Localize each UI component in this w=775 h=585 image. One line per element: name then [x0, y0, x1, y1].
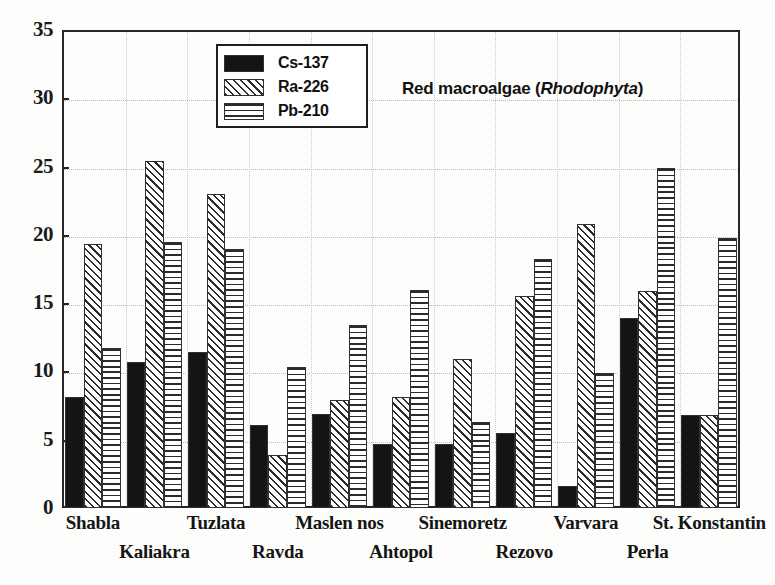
x-axis-label: Shabla — [66, 512, 120, 534]
bar-ra-226-maslen-nos — [330, 400, 349, 508]
legend-label-ra226: Ra-226 — [278, 78, 329, 96]
bar-ra-226-st-konstantin — [700, 415, 719, 508]
bar-cs-137-varvara — [558, 486, 577, 508]
x-axis-label: Ahtopol — [369, 541, 432, 563]
y-axis-tick-label: 20 — [33, 224, 53, 245]
y-axis-tick-label: 0 — [43, 497, 53, 518]
chart-figure: 05101520253035 Cs-137 Ra-226 Pb-210 Red … — [0, 0, 775, 585]
bar-cs-137-sinemoretz — [435, 444, 454, 508]
bar-ra-226-rezovo — [515, 296, 534, 508]
bar-cs-137-tuzlata — [188, 352, 207, 508]
legend-swatch-pb210-icon — [224, 103, 264, 120]
x-axis-label: Rezovo — [496, 541, 553, 563]
x-axis-label: Varvara — [554, 512, 619, 534]
bar-ra-226-sinemoretz — [453, 359, 472, 508]
x-axis-label: Ravda — [252, 541, 303, 563]
bar-ra-226-varvara — [577, 224, 596, 508]
bar-pb-210-ravda — [287, 367, 306, 508]
y-axis-tick-label: 25 — [33, 156, 53, 177]
bar-cs-137-perla — [620, 318, 639, 508]
bar-pb-210-perla — [657, 168, 676, 508]
x-axis-label: Maslen nos — [295, 512, 383, 534]
bar-cs-137-ahtopol — [373, 444, 392, 508]
bar-pb-210-st-konstantin — [718, 238, 737, 508]
chart-title-species: Rhodophyta — [541, 79, 638, 98]
bar-pb-210-shabla — [102, 348, 121, 508]
legend-swatch-ra226-icon — [224, 79, 264, 96]
bars-layer — [62, 30, 740, 508]
bar-pb-210-ahtopol — [410, 290, 429, 509]
legend-item: Cs-137 — [224, 51, 360, 75]
chart-legend: Cs-137 Ra-226 Pb-210 — [216, 44, 368, 128]
legend-label-pb210: Pb-210 — [278, 102, 329, 120]
bar-pb-210-varvara — [595, 373, 614, 508]
bar-ra-226-ahtopol — [392, 397, 411, 508]
legend-item: Ra-226 — [224, 75, 360, 99]
y-axis-tick-label: 30 — [33, 87, 53, 108]
bar-pb-210-kaliakra — [164, 242, 183, 508]
y-axis-tick-label: 5 — [43, 429, 53, 450]
bar-ra-226-kaliakra — [145, 161, 164, 508]
bar-pb-210-maslen-nos — [349, 325, 368, 508]
bar-ra-226-shabla — [84, 244, 103, 508]
bar-ra-226-perla — [638, 291, 657, 508]
bar-cs-137-ravda — [250, 425, 269, 508]
bar-pb-210-tuzlata — [225, 249, 244, 508]
legend-item: Pb-210 — [224, 99, 360, 123]
x-axis-label: Perla — [627, 541, 669, 563]
bar-cs-137-shabla — [65, 397, 84, 508]
chart-title: Red macroalgae (Rhodophyta) — [402, 79, 643, 99]
bar-cs-137-rezovo — [496, 433, 515, 508]
x-axis-label: Kaliakra — [119, 541, 189, 563]
bar-ra-226-ravda — [268, 455, 287, 508]
legend-swatch-cs137-icon — [224, 55, 264, 72]
chart-title-tail: ) — [638, 79, 643, 98]
bar-cs-137-kaliakra — [127, 362, 146, 508]
y-axis-tick-label: 15 — [33, 292, 53, 313]
chart-title-plain: Red macroalgae ( — [402, 79, 541, 98]
x-axis-label: Sinemoretz — [418, 512, 506, 534]
y-axis-tick-label: 35 — [33, 19, 53, 40]
y-axis-tick-label: 10 — [33, 360, 53, 381]
bar-cs-137-st-konstantin — [681, 415, 700, 508]
legend-label-cs137: Cs-137 — [278, 54, 329, 72]
bar-pb-210-sinemoretz — [472, 422, 491, 508]
x-axis-label: Tuzlata — [187, 512, 245, 534]
bar-cs-137-maslen-nos — [312, 414, 331, 508]
bar-ra-226-tuzlata — [207, 194, 226, 508]
bar-pb-210-rezovo — [534, 259, 553, 508]
x-axis-label: St. Konstantin — [653, 512, 766, 534]
